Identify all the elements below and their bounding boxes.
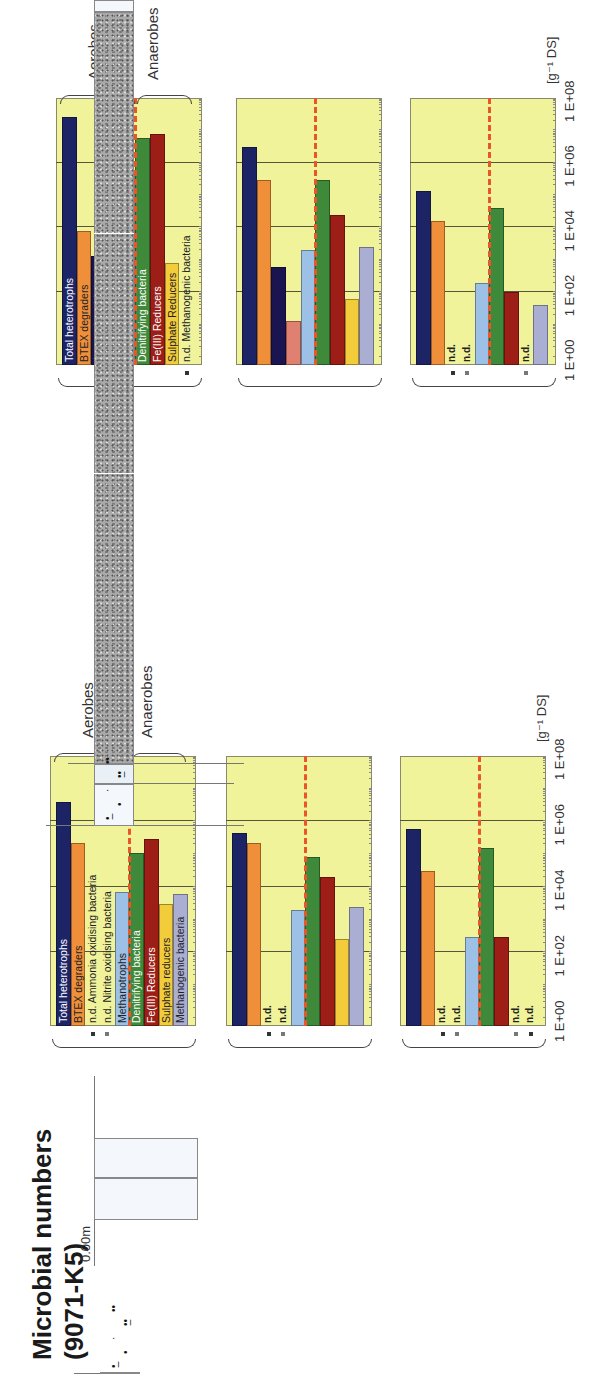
k2-minor-tick <box>379 304 382 305</box>
k5-minor-tick <box>193 843 196 844</box>
k5-minor-tick <box>193 886 196 887</box>
k2-minor-tick <box>379 333 382 334</box>
k5-minor-tick <box>543 956 546 957</box>
k2-minor-tick <box>553 146 556 147</box>
k2-minor-tick <box>553 337 556 338</box>
k2-minor-tick <box>199 340 202 341</box>
k5-minor-tick <box>369 828 372 829</box>
k2-minor-tick <box>199 327 202 328</box>
k5-minor-tick <box>543 888 546 889</box>
k5-depth-top: 0.00m <box>78 1226 93 1262</box>
k2-minor-tick <box>199 139 202 140</box>
k5-minor-tick <box>369 893 372 894</box>
k2-minor-tick <box>553 230 556 231</box>
k2-bar-total-heterotrophs <box>242 147 257 365</box>
k5-minor-tick <box>369 929 372 930</box>
k5-bar-fe3 <box>320 877 335 1026</box>
k5-lithology-symbol: •̲• <box>114 771 125 778</box>
k5-minor-tick <box>369 824 372 825</box>
k2-minor-tick <box>379 175 382 176</box>
k2-minor-tick <box>379 152 382 153</box>
k5-minor-tick <box>193 801 196 802</box>
k5-legend-marker <box>455 1032 459 1036</box>
k5-legend-marker <box>91 1032 95 1036</box>
k5-minor-tick <box>369 811 372 812</box>
k5-minor-tick <box>369 870 372 871</box>
k2-minor-tick <box>379 207 382 208</box>
k2-minor-tick <box>379 217 382 218</box>
k2-minor-tick <box>553 269 556 270</box>
k2-minor-tick <box>379 346 382 347</box>
k5-minor-tick <box>193 952 196 953</box>
k5-gridline <box>400 821 546 822</box>
k5-minor-tick <box>193 969 196 970</box>
k2-bar-ammonia <box>271 267 286 365</box>
k2-minor-tick <box>379 110 382 111</box>
k2-minor-tick <box>553 179 556 180</box>
k2-minor-tick <box>199 259 202 260</box>
k5-minor-tick <box>193 858 196 859</box>
k5-minor-tick <box>193 757 196 758</box>
k2-minor-tick <box>199 234 202 235</box>
k5-minor-tick <box>369 855 372 856</box>
k5-minor-tick <box>369 778 372 779</box>
k5-legend-marker <box>281 1032 285 1036</box>
k5-category-label: Fe(III) Reducers <box>144 947 159 1026</box>
k5-category-label: n.d. Nitrite oxidising bacteria <box>100 891 115 1026</box>
k5-minor-tick <box>193 857 196 858</box>
k5-anaerobes-brace <box>131 753 186 762</box>
k2-minor-tick <box>199 291 202 292</box>
k2-minor-tick <box>553 276 556 277</box>
k2-minor-tick <box>199 304 202 305</box>
k5-minor-tick <box>193 932 196 933</box>
k2-minor-tick <box>553 282 556 283</box>
k5-minor-tick <box>193 888 196 889</box>
k5-minor-tick <box>543 866 546 867</box>
k5-minor-tick <box>543 798 546 799</box>
k2-minor-tick <box>553 175 556 176</box>
k5-legend-marker <box>441 1032 445 1036</box>
k5-minor-tick <box>543 805 546 806</box>
k2-minor-tick <box>553 139 556 140</box>
k5-minor-tick <box>193 834 196 835</box>
k5-minor-tick <box>543 988 546 989</box>
k5-minor-tick <box>543 824 546 825</box>
k2-minor-tick <box>553 304 556 305</box>
k5-minor-tick <box>369 909 372 910</box>
k2-lithology-symbol: •̲• <box>120 1319 131 1326</box>
k5-legend-marker <box>267 1032 271 1036</box>
k5-depth-line <box>134 763 244 764</box>
k5-minor-tick <box>543 821 546 822</box>
k2-minor-tick <box>553 301 556 302</box>
k5-gravel-divider <box>94 233 134 234</box>
k2-minor-tick <box>199 243 202 244</box>
k5-minor-tick <box>543 909 546 910</box>
k2-minor-tick <box>553 133 556 134</box>
k5-minor-tick <box>193 956 196 957</box>
k5-minor-tick <box>369 922 372 923</box>
k2-minor-tick <box>199 171 202 172</box>
k2-minor-tick <box>553 107 556 108</box>
k5-lithology-symbol: •• <box>102 757 113 764</box>
k2-minor-tick <box>379 227 382 228</box>
k5-minor-tick <box>543 924 546 925</box>
k5-minor-tick <box>193 860 196 861</box>
k5-bar-btex <box>421 871 436 1026</box>
k2-minor-tick <box>553 239 556 240</box>
k5-minor-tick <box>193 926 196 927</box>
k5-minor-tick <box>543 953 546 954</box>
k5-bar-fe3 <box>494 937 509 1026</box>
k5-minor-tick <box>193 830 196 831</box>
k2-minor-tick <box>553 167 556 168</box>
k5-minor-tick <box>543 855 546 856</box>
k2-minor-tick <box>553 201 556 202</box>
k5-minor-tick <box>543 889 546 890</box>
k5-lithology-symbol: • <box>114 802 125 806</box>
k2-minor-tick <box>379 228 382 229</box>
k5-minor-tick <box>369 757 372 758</box>
k2-minor-tick <box>379 129 382 130</box>
k5-minor-tick <box>369 988 372 989</box>
k2-minor-tick <box>199 293 202 294</box>
k5-minor-tick <box>369 791 372 792</box>
k5-minor-tick <box>369 768 372 769</box>
